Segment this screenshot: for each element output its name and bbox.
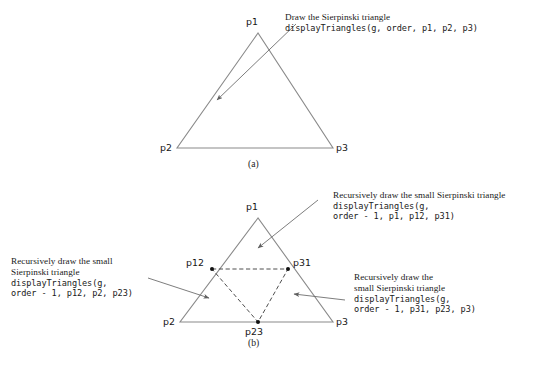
annotation-b-left-prose-1: Recursively draw the small: [11, 256, 113, 267]
arrow-b-top-leader: [258, 200, 318, 248]
annotation-b-right-code-1: displayTriangles(g,: [354, 294, 450, 305]
arrow-b-left-leader: [148, 278, 209, 298]
label-b-p31: p31: [293, 257, 311, 268]
caption-part-b: (b): [248, 337, 259, 348]
part-b-graphics: [148, 200, 345, 324]
label-a-p1: p1: [246, 16, 258, 27]
label-b-p23: p23: [245, 326, 263, 337]
label-a-p2: p2: [160, 142, 172, 153]
caption-part-a: (a): [248, 158, 259, 169]
triangle-a-outline: [177, 33, 333, 148]
label-b-p12: p12: [186, 257, 204, 268]
part-a-graphics: [177, 24, 333, 148]
annotation-b-top-code-1: displayTriangles(g,: [333, 201, 429, 212]
label-b-p3: p3: [336, 316, 348, 327]
annotation-a-code: displayTriangles(g, order, p1, p2, p3): [285, 23, 478, 34]
vertex-dot-p31: [286, 267, 290, 271]
triangle-b-outline: [180, 218, 333, 322]
figure-page: p1 p2 p3 Draw the Sierpinski triangle di…: [0, 0, 546, 370]
annotation-b-left-code-2: order - 1, p12, p2, p23): [11, 288, 133, 299]
annotation-b-top-prose: Recursively draw the small Sierpinski tr…: [333, 190, 505, 201]
annotation-b-top-code-2: order - 1, p1, p12, p31): [333, 211, 455, 222]
triangle-b-inner-dashed: [212, 269, 288, 322]
annotation-b-left-prose-2: Sierpinski triangle: [11, 267, 80, 278]
annotation-a-prose: Draw the Sierpinski triangle: [285, 12, 390, 23]
annotation-b-right-prose-1: Recursively draw the: [354, 272, 433, 283]
label-a-p3: p3: [336, 142, 348, 153]
label-b-p2: p2: [163, 316, 175, 327]
annotation-b-right-prose-2: small Sierpinski triangle: [354, 283, 445, 294]
annotation-b-right-code-2: order - 1, p31, p23, p3): [354, 304, 476, 315]
arrow-b-right-leader: [294, 294, 345, 300]
vertex-dot-p12: [210, 267, 214, 271]
vertex-dot-p23: [256, 320, 260, 324]
label-b-p1: p1: [246, 201, 258, 212]
annotation-b-left-code-1: displayTriangles(g,: [11, 278, 107, 289]
